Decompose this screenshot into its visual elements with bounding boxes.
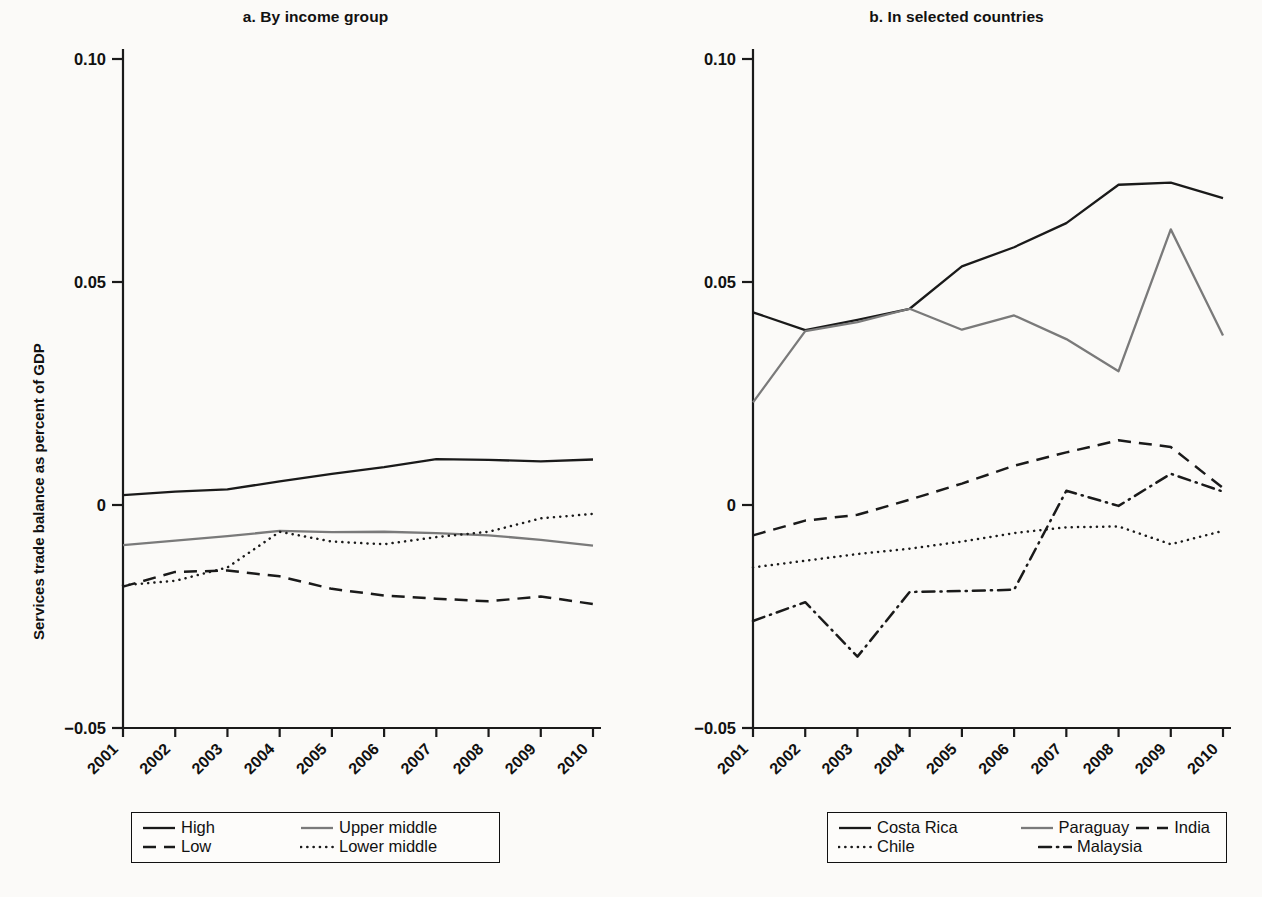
series-line-india — [753, 440, 1223, 535]
panel-a-plot-area: −0.0500.050.1020012002200320042005200620… — [0, 0, 631, 800]
legend-label: Paraguay — [1059, 818, 1130, 837]
series-line-paraguay — [753, 229, 1223, 402]
line-solid-gray-icon — [300, 821, 334, 835]
panel-b-in-selected-countries: b. In selected countries Services trade … — [631, 0, 1262, 897]
svg-text:0: 0 — [727, 496, 736, 514]
line-dotted-icon — [838, 840, 872, 854]
series-line-upper-middle — [123, 531, 593, 546]
svg-text:2001: 2001 — [714, 740, 751, 777]
svg-text:0.05: 0.05 — [74, 273, 106, 291]
svg-text:2010: 2010 — [554, 740, 591, 777]
series-line-low — [123, 571, 593, 604]
series-line-malaysia — [753, 474, 1223, 657]
svg-text:2008: 2008 — [449, 740, 486, 777]
svg-text:2009: 2009 — [502, 740, 539, 777]
legend-item-malaysia[interactable]: Malaysia — [1038, 837, 1148, 856]
svg-text:2008: 2008 — [1079, 740, 1116, 777]
legend-label: Chile — [877, 837, 915, 856]
legend-item-lower-middle[interactable]: Lower middle — [300, 837, 443, 856]
legend-label: Lower middle — [339, 837, 437, 856]
legend-row: High Upper middle — [142, 818, 489, 837]
line-dotted-icon — [300, 840, 334, 854]
legend-label: Malaysia — [1077, 837, 1142, 856]
legend-item-chile[interactable]: Chile — [838, 837, 1038, 856]
svg-text:2003: 2003 — [188, 740, 225, 777]
svg-text:2010: 2010 — [1184, 740, 1221, 777]
legend-item-costa-rica[interactable]: Costa Rica — [838, 818, 1020, 837]
svg-text:2002: 2002 — [766, 740, 803, 777]
series-line-costa-rica — [753, 183, 1223, 331]
legend-item-india[interactable]: India — [1135, 818, 1216, 837]
legend-row: Chile Malaysia — [838, 837, 1216, 856]
svg-text:−0.05: −0.05 — [64, 719, 106, 737]
svg-text:0.10: 0.10 — [704, 50, 736, 68]
series-line-chile — [753, 526, 1223, 567]
svg-text:−0.05: −0.05 — [694, 719, 736, 737]
legend-row: Low Lower middle — [142, 837, 489, 856]
line-dashed-icon — [1135, 821, 1169, 835]
svg-text:2004: 2004 — [871, 740, 908, 777]
legend-label: India — [1174, 818, 1210, 837]
legend-item-high[interactable]: High — [142, 818, 300, 837]
panel-b-legend: Costa Rica Paraguay India Chile Malaysia — [827, 812, 1227, 863]
legend-item-low[interactable]: Low — [142, 837, 300, 856]
figure-services-trade-balance: a. By income group Services trade balanc… — [0, 0, 1262, 897]
legend-label: Low — [181, 837, 211, 856]
legend-label: Costa Rica — [877, 818, 958, 837]
svg-text:2002: 2002 — [136, 740, 173, 777]
svg-text:2009: 2009 — [1132, 740, 1169, 777]
series-line-high — [123, 459, 593, 495]
svg-text:2006: 2006 — [975, 740, 1012, 777]
legend-label: Upper middle — [339, 818, 437, 837]
legend-item-paraguay[interactable]: Paraguay — [1020, 818, 1136, 837]
line-dashdot-icon — [1038, 840, 1072, 854]
svg-text:0.05: 0.05 — [704, 273, 736, 291]
svg-text:2003: 2003 — [818, 740, 855, 777]
svg-text:0.10: 0.10 — [74, 50, 106, 68]
panel-a-by-income-group: a. By income group Services trade balanc… — [0, 0, 631, 897]
legend-item-upper-middle[interactable]: Upper middle — [300, 818, 443, 837]
svg-text:2007: 2007 — [1027, 740, 1064, 777]
panel-b-plot-area: −0.0500.050.1020012002200320042005200620… — [631, 0, 1262, 800]
legend-row: Costa Rica Paraguay India — [838, 818, 1216, 837]
svg-text:2007: 2007 — [397, 740, 434, 777]
svg-text:2005: 2005 — [293, 740, 330, 777]
panel-a-legend: High Upper middle Low Lower middle — [131, 812, 500, 863]
svg-text:0: 0 — [97, 496, 106, 514]
series-line-lower-middle — [123, 514, 593, 585]
line-dashed-icon — [142, 840, 176, 854]
svg-text:2006: 2006 — [345, 740, 382, 777]
line-solid-black-icon — [838, 821, 872, 835]
line-solid-gray-icon — [1020, 821, 1054, 835]
svg-text:2001: 2001 — [84, 740, 121, 777]
svg-text:2004: 2004 — [241, 740, 278, 777]
legend-label: High — [181, 818, 215, 837]
svg-text:2005: 2005 — [923, 740, 960, 777]
line-solid-black-icon — [142, 821, 176, 835]
